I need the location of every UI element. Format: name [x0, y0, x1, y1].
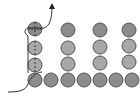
grid-circle: [93, 23, 107, 37]
grid-circle: [93, 73, 107, 87]
grid-circle: [125, 73, 139, 87]
grid-circle: [28, 41, 42, 55]
grid-circle: [122, 55, 136, 69]
grid-circle: [122, 23, 136, 37]
grid-circle: [122, 39, 136, 53]
diagram-canvas: [0, 0, 140, 102]
grid-circle: [93, 40, 107, 54]
grid-circle: [44, 73, 58, 87]
grid-circle: [61, 73, 75, 87]
grid-circle: [61, 23, 75, 37]
circle-grid-diagram: [0, 0, 140, 102]
grid-circle: [28, 58, 42, 72]
grid-circle: [93, 56, 107, 70]
grid-circle: [61, 41, 75, 55]
grid-circle: [77, 73, 91, 87]
grid-circle: [61, 57, 75, 71]
circles-group: [28, 22, 139, 87]
grid-circle: [109, 73, 123, 87]
